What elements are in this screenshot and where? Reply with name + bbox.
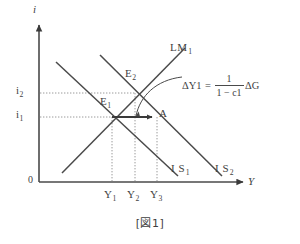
x-tick-y3-base: Y: [150, 188, 158, 200]
y-tick-i2: i2: [16, 85, 23, 99]
curve-label-is1-base: I S: [171, 162, 185, 174]
point-label-e2-base: E: [125, 67, 132, 79]
y-tick-i1-sub: 1: [19, 114, 23, 123]
point-label-e1: E1: [100, 96, 111, 110]
curve-label-is1-sub: 1: [185, 168, 190, 177]
equation-numerator: 1: [223, 73, 236, 85]
curve-label-lm1-sub: 1: [188, 47, 193, 56]
x-tick-y3-sub: 3: [158, 194, 162, 203]
equation-lhs-base: ΔY: [182, 80, 196, 91]
x-tick-y1: Y1: [104, 189, 116, 203]
figure-container: i Y 0 i2 i1 Y1 Y2 Y3 LM1 I S1 I S2 E1 E2…: [0, 0, 300, 244]
equation-fraction: 1 1 − c1: [215, 73, 244, 98]
equation-denominator-base: 1 − c: [217, 87, 237, 98]
x-axis-label: Y: [248, 176, 254, 187]
equation-lhs-sub: 1: [196, 80, 201, 91]
equation-equals-sign: =: [205, 80, 211, 91]
point-label-e2-sub: 2: [132, 73, 136, 82]
y-tick-i1: i1: [16, 109, 23, 123]
point-label-a: A: [159, 108, 167, 119]
equation-multiplier: ΔG: [245, 80, 259, 91]
figure-caption: [図1]: [0, 214, 300, 230]
point-label-e1-sub: 1: [107, 101, 111, 110]
curve-label-is2-sub: 2: [229, 168, 234, 177]
x-tick-y1-sub: 1: [112, 194, 116, 203]
equation-denominator: 1 − c1: [215, 86, 244, 98]
x-tick-y2-sub: 2: [135, 194, 139, 203]
curve-label-is1: I S1: [171, 163, 190, 177]
multiplier-equation: ΔY1 = 1 1 − c1 ΔG: [182, 73, 259, 98]
curve-label-lm1-base: LM: [170, 41, 188, 53]
equation-lhs: ΔY1: [182, 80, 202, 91]
x-tick-y2-base: Y: [127, 188, 135, 200]
y-tick-i2-sub: 2: [19, 90, 23, 99]
curve-is1: [56, 62, 178, 176]
equation-denominator-sub: 1: [237, 87, 242, 98]
y-axis-label: i: [33, 4, 36, 15]
origin-label: 0: [28, 175, 33, 185]
point-label-a-base: A: [159, 107, 167, 119]
x-tick-y2: Y2: [127, 189, 139, 203]
curve-label-is2: I S2: [215, 163, 234, 177]
curve-label-lm1: LM1: [170, 42, 193, 56]
x-tick-y3: Y3: [150, 189, 162, 203]
curve-label-is2-base: I S: [215, 162, 229, 174]
point-label-e1-base: E: [100, 95, 107, 107]
x-tick-y1-base: Y: [104, 188, 112, 200]
point-label-e2: E2: [125, 68, 136, 82]
is-lm-diagram: [0, 0, 300, 244]
